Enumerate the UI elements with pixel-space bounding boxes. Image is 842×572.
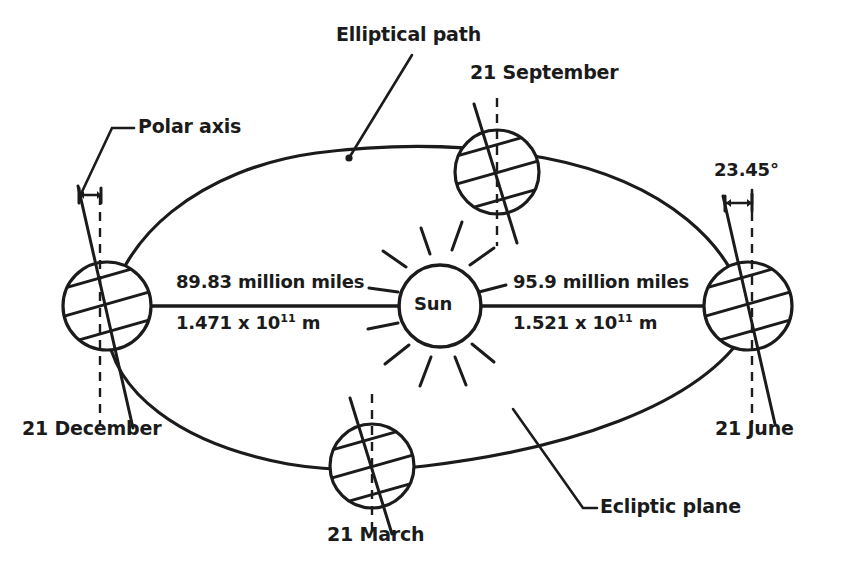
left-meters-exponent: 11 [280, 312, 296, 325]
sun-ray [421, 228, 430, 254]
label-right-distance-meters: 1.521 x 1011 m [513, 313, 657, 334]
orbit-diagram: Elliptical path 21 September Polar axis … [0, 0, 842, 572]
sun-ray [472, 344, 494, 362]
polar-axis-leader [80, 128, 134, 196]
label-21-december: 21 December [22, 418, 161, 440]
sun-ray [369, 288, 398, 292]
label-right-distance-miles: 95.9 million miles [513, 272, 689, 293]
june-angle-marker [725, 194, 752, 211]
earth-september-group [450, 98, 545, 246]
orbit-diagram-canvas [0, 0, 842, 572]
label-left-distance-miles: 89.83 million miles [176, 272, 364, 293]
label-sun: Sun [414, 294, 452, 315]
label-polar-axis: Polar axis [138, 116, 241, 138]
label-elliptical-path: Elliptical path [336, 24, 481, 46]
sun-ray [455, 357, 466, 385]
label-left-distance-meters: 1.471 x 1011 m [176, 313, 320, 334]
ecliptic-plane-leader [513, 409, 597, 508]
sun-ray [470, 248, 494, 265]
label-axis-tilt-angle: 23.45° [714, 160, 779, 181]
sun-ray [368, 323, 398, 329]
sun-ray [383, 251, 406, 267]
right-meters-mantissa: 1.521 x 10 [513, 312, 617, 333]
sun-ray [420, 357, 431, 386]
sun-ray [479, 285, 506, 292]
sun-ray [385, 345, 409, 364]
orbit-arc-lower [107, 328, 748, 470]
elliptical-path-anchor-dot [345, 154, 352, 161]
label-ecliptic-plane: Ecliptic plane [600, 496, 741, 518]
label-21-march: 21 March [327, 524, 424, 546]
earth-december-group [58, 186, 156, 428]
sun-ray [452, 222, 462, 250]
earth-march-group [325, 394, 420, 538]
left-meters-unit: m [296, 312, 321, 333]
left-meters-mantissa: 1.471 x 10 [176, 312, 280, 333]
label-21-june: 21 June [715, 418, 794, 440]
label-21-september: 21 September [470, 62, 618, 84]
right-meters-exponent: 11 [617, 312, 633, 325]
right-meters-unit: m [633, 312, 658, 333]
earth-june-group [699, 194, 797, 424]
